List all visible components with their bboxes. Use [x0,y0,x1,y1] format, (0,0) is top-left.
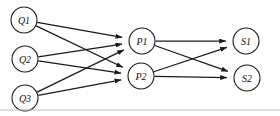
edge-q3-p2 [38,80,121,96]
node-q1[interactable]: Q1 [11,7,37,33]
edge-p2-s1 [154,47,227,71]
node-p1[interactable]: P1 [129,28,155,54]
node-label-s2: S2 [242,73,252,84]
node-label-p2: P2 [134,71,146,82]
node-label-s1: S1 [241,36,251,47]
node-label-q1: Q1 [18,15,30,26]
node-q2[interactable]: Q2 [12,46,38,72]
node-label-q2: Q2 [19,54,31,65]
graph-svg: Q1Q2Q3P1P2S1S2 [0,0,280,116]
node-label-q3: Q3 [19,93,31,104]
node-layer: Q1Q2Q3P1P2S1S2 [11,7,260,111]
diagram-canvas: Q1Q2Q3P1P2S1S2 [0,0,280,116]
node-p2[interactable]: P2 [128,63,154,89]
edge-q1-p1 [37,22,122,37]
edge-q2-p1 [38,44,122,57]
node-label-p1: P1 [135,36,147,47]
node-s1[interactable]: S1 [233,28,259,54]
node-s2[interactable]: S2 [234,65,260,91]
node-q3[interactable]: Q3 [12,85,38,111]
edge-p2-s2 [154,76,226,77]
